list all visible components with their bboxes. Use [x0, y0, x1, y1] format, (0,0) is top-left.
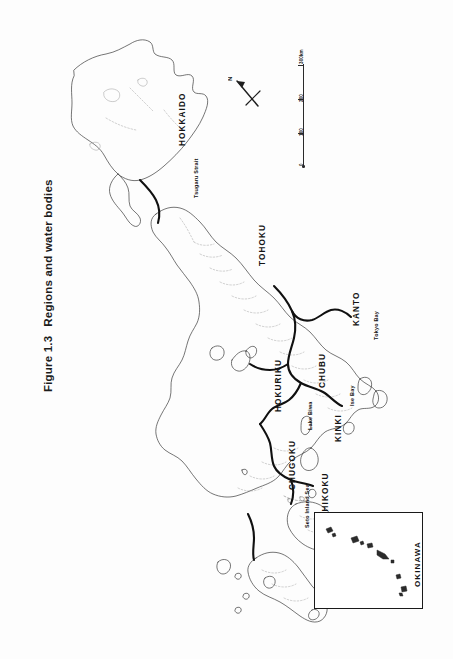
- scale-bar-axis: [303, 64, 304, 168]
- prefecture-boundary: [210, 268, 233, 271]
- prefecture-boundary: [268, 338, 292, 341]
- coastline-kii-peninsula: [301, 448, 319, 471]
- region-label-kanto: KANTO: [352, 292, 361, 326]
- island-sado: [210, 346, 224, 360]
- island-okinawa-main: [377, 550, 389, 559]
- prefecture-boundary: [106, 118, 136, 130]
- prefecture-boundary: [256, 324, 280, 327]
- island-small-2: [360, 541, 364, 545]
- region-label-chubu: CHUBU: [318, 353, 327, 388]
- coastline-hokkaido-oshima: [109, 174, 140, 226]
- okinawa-inset: OKINAWA: [314, 512, 423, 609]
- water-label-tsugaru-strait: Tsugaru Strait: [193, 158, 199, 198]
- compass-icon: N: [228, 72, 272, 118]
- hokkaido-inner-detail: [104, 89, 120, 102]
- water-label-tokyo-bay: Tokyo Bay: [373, 311, 379, 340]
- coastline-hokkaido: [71, 40, 207, 181]
- island-ishigaki: [401, 586, 407, 592]
- region-boundary-chugoku-kyushu: [248, 514, 254, 560]
- scale-label-100: 100: [299, 128, 304, 136]
- coastline-boso-peninsula: [373, 390, 387, 408]
- figure-number: Figure 1.3: [42, 336, 54, 392]
- island-okinoerabu: [367, 543, 373, 548]
- region-boundary-hokkaido-tohoku: [140, 180, 159, 223]
- region-label-hokkaido: HOKKAIDO: [178, 93, 187, 146]
- island-goto-1: [243, 593, 249, 599]
- island-amami: [326, 527, 333, 533]
- prefecture-boundary: [262, 570, 286, 573]
- inset-label-okinawa: OKINAWA: [413, 541, 422, 587]
- prefecture-boundary: [238, 488, 262, 491]
- region-label-tohoku: TOHOKU: [258, 224, 267, 266]
- prefecture-boundary: [284, 598, 308, 601]
- prefecture-boundary: [180, 218, 194, 242]
- figure-page: Figure 1.3Regions and water bodies: [0, 0, 453, 659]
- compass-north-letter: N: [228, 77, 233, 81]
- hokkaido-inner-detail-2: [138, 78, 147, 86]
- island-goto-2: [235, 607, 241, 613]
- prefecture-boundary: [194, 242, 214, 245]
- island-tokunoshima: [351, 536, 359, 543]
- figure-title: Regions and water bodies: [42, 179, 54, 326]
- island-oki: [242, 469, 247, 474]
- scale-label-300: 300km: [299, 49, 304, 64]
- region-label-hokuriku: HOKURIKU: [274, 359, 283, 412]
- island-tsushima: [217, 559, 231, 574]
- prefecture-boundary: [220, 282, 244, 285]
- island-iriomote: [399, 593, 403, 596]
- water-label-seto-inland-sea: Seto Inland Sea: [304, 484, 310, 528]
- figure-caption: Figure 1.3Regions and water bodies: [42, 179, 54, 392]
- prefecture-boundary: [250, 476, 274, 479]
- region-label-chugoku: CHUGOKU: [288, 440, 297, 490]
- prefecture-boundary: [244, 310, 268, 313]
- compass-rose: N: [228, 72, 272, 118]
- coastline-ise-bay: [343, 422, 354, 434]
- region-label-kinki: KINKI: [334, 414, 343, 442]
- coastline-kyushu-shimabara: [264, 576, 276, 588]
- scale-bar: 300km 200 100 0: [293, 62, 309, 170]
- island-small-1: [332, 533, 336, 537]
- region-boundary-kinki-chugoku: [260, 424, 313, 486]
- prefecture-boundary: [280, 352, 304, 355]
- prefecture-boundary: [200, 254, 223, 257]
- scale-label-0: 0: [299, 163, 304, 166]
- water-label-lake-biwa: Lake Biwa: [307, 401, 313, 430]
- hokkaido-inner-detail-3: [90, 142, 100, 150]
- scale-label-200: 200: [299, 94, 304, 102]
- prefecture-boundary: [130, 88, 154, 112]
- prefecture-boundary: [272, 584, 296, 587]
- island-iki: [235, 573, 241, 579]
- scale-tick-300: [298, 65, 304, 66]
- prefecture-boundary: [232, 296, 256, 299]
- water-label-ise-bay: Ise Bay: [349, 385, 355, 406]
- region-boundary-tohoku-kanto: [274, 286, 351, 321]
- coastline-noto-peninsula: [231, 351, 250, 371]
- coastline-kyushu-south-tip: [309, 609, 320, 619]
- prefecture-boundary: [328, 408, 352, 411]
- coastline-noto-tip: [246, 346, 257, 358]
- prefecture-boundary: [292, 366, 316, 369]
- island-small-3: [391, 560, 394, 563]
- island-miyako: [396, 574, 401, 579]
- okinawa-islands-artwork: [315, 513, 419, 605]
